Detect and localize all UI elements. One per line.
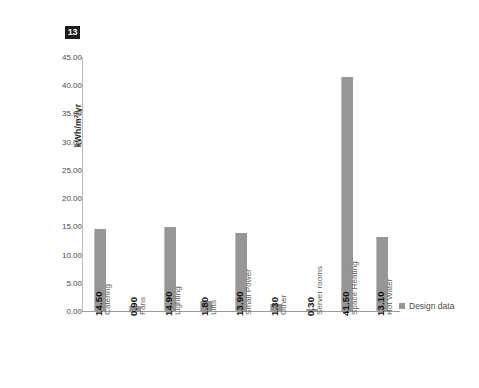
x-axis-category-label: Fans xyxy=(138,297,147,315)
y-axis-tick-label: 5.00 xyxy=(40,278,82,287)
x-axis-category-label: Small Power xyxy=(244,269,253,315)
x-axis-category-label: Lighting xyxy=(173,286,182,315)
y-axis-tick-label: 15.00 xyxy=(40,222,82,231)
x-axis-category-label: Catering xyxy=(103,284,112,315)
y-axis-tick-label: 45.00 xyxy=(40,53,82,62)
y-axis-tick-labels: 0.005.0010.0015.0020.0025.0030.0035.0040… xyxy=(0,0,82,388)
chart-legend: Design data xyxy=(399,301,454,311)
y-axis-tick-label: 10.00 xyxy=(40,250,82,259)
figure-chart: 13 kWh/m2/yr 0.005.0010.0015.0020.0025.0… xyxy=(0,0,479,388)
y-axis-tick-label: 20.00 xyxy=(40,194,82,203)
x-axis-category-label: Server rooms xyxy=(315,266,324,315)
x-axis-category-label: Other xyxy=(279,294,288,315)
legend-label-design-data: Design data xyxy=(409,301,454,311)
x-axis-category-labels: CateringFansLightingLiftsSmall PowerOthe… xyxy=(82,313,400,388)
y-axis-tick-label: 35.00 xyxy=(40,109,82,118)
y-axis-tick-label: 40.00 xyxy=(40,81,82,90)
x-axis-category-label: Lifts xyxy=(209,300,218,315)
x-axis-category-label: Space Heating xyxy=(350,261,359,315)
y-axis-tick-label: 25.00 xyxy=(40,165,82,174)
x-axis-category-label: Hot Water xyxy=(385,278,394,315)
y-axis-tick-label: 30.00 xyxy=(40,137,82,146)
legend-swatch-design-data xyxy=(399,303,405,309)
y-axis-tick-label: 0.00 xyxy=(40,307,82,316)
